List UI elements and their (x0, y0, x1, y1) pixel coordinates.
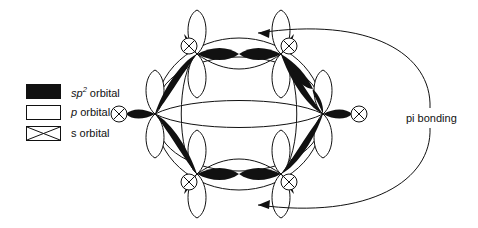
s-orbital-swatch-icon (26, 126, 61, 141)
legend-suffix-s: orbital (77, 127, 110, 139)
legend-item-s: s orbital (26, 124, 146, 143)
pi-bonding-arrowhead-top (258, 29, 270, 38)
s-orbital-right (351, 106, 367, 122)
s-orbital-lower-left (181, 174, 197, 190)
sp2-orbital-swatch-icon (26, 84, 61, 99)
p-orbitals (146, 10, 332, 218)
sigma-bond-c1-c2 (197, 48, 281, 60)
legend-label-sp2: sp2 orbital (71, 84, 120, 99)
pi-cloud-inner-upper-lens-a (155, 101, 323, 115)
sp2-lobe-to-h3 (323, 110, 352, 119)
s-orbital-upper-left (181, 38, 197, 54)
legend-suffix-sp2: orbital (87, 87, 120, 99)
pi-bonding-label: pi bonding (406, 112, 457, 124)
legend-suffix-p: orbital (77, 106, 110, 118)
pi-cloud-inner-upper-lens-b (155, 114, 323, 128)
legend-item-sp2: sp2 orbital (26, 82, 146, 101)
s-orbital-upper-right (281, 38, 297, 54)
sp2-orbitals (126, 34, 352, 194)
pi-cloud-outer-circle (155, 38, 323, 190)
pi-bonding-arrowhead-bottom (258, 200, 270, 209)
legend-item-p: p orbital (26, 103, 146, 122)
p-orbital-swatch-icon (26, 105, 61, 120)
legend-label-p: p orbital (71, 107, 110, 118)
legend-symbol-sp2: sp (71, 87, 83, 99)
legend-label-s: s orbital (71, 128, 110, 139)
pi-cloud-contours (155, 38, 323, 190)
s-orbital-lower-right (281, 174, 297, 190)
legend: sp2 orbital p orbital s orbital (26, 82, 146, 145)
sigma-bond-c4-c5 (197, 168, 281, 180)
